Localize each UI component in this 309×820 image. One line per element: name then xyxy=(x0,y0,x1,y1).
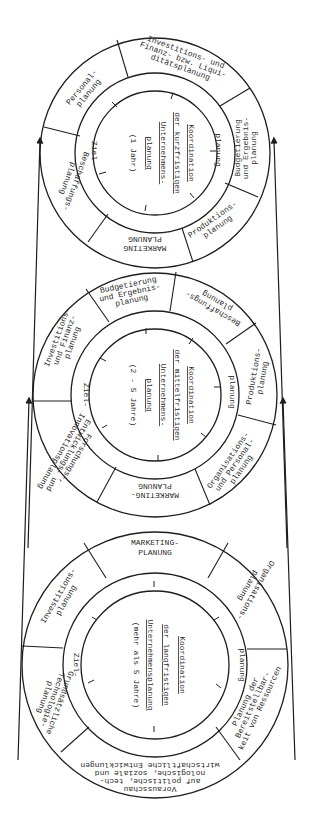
center-text-line-4: (mehr als 5 Jahre) xyxy=(132,622,141,708)
segment-marketing: MARKETING- PLANUNG xyxy=(131,482,179,500)
wheel-mid-term: Koordination der mittelfristigen Unterne… xyxy=(33,272,277,517)
inner-ring-right: planung xyxy=(238,648,247,682)
svg-text:MARKETING: MARKETING xyxy=(123,244,166,253)
inner-ring-right: planung xyxy=(214,133,223,167)
segment-marketing: MARKETING PLANUNG xyxy=(123,235,166,253)
center-text-line-5: (1 Jahr) xyxy=(129,134,138,172)
center-text-line-2: der langfristigen xyxy=(162,624,171,706)
center-text-line-4: planung xyxy=(145,136,154,170)
svg-text:MARKETING-: MARKETING- xyxy=(131,491,179,500)
svg-text:PLANUNG: PLANUNG xyxy=(128,235,162,244)
svg-text:PLANUNG: PLANUNG xyxy=(138,548,172,557)
center-text-line-3: Unternehmens- xyxy=(159,122,168,184)
wheel-long-term: Koordination der langfristigen Unternehm… xyxy=(22,532,288,798)
segment-bereitstellbarkeit-ressourcen: Planung der Bereitstellbar- keit von Res… xyxy=(222,658,283,751)
segment-vorausschau: Vorausschau auf politische, tech- nologi… xyxy=(80,761,219,794)
segment-forschung-entwicklung: Forschungs-, Entwicklungs- und Innovatio… xyxy=(36,412,101,500)
center-text-line-2: der kurzfristigen xyxy=(173,112,182,194)
segment-budgetierung: Budgetierung und Ergebnis- planung xyxy=(233,117,258,179)
center-text-line-3: Unternehmensplanung xyxy=(146,619,155,710)
center-text-line-5: (2 - 5 Jahre) xyxy=(129,364,138,426)
segment-investitions-finanz: Investitions- und Finanz- planung xyxy=(42,306,87,373)
segment-investitions: Investitions- planung xyxy=(39,566,86,629)
svg-text:wirtschaftliche Entwicklungen: wirtschaftliche Entwicklungen xyxy=(80,761,219,770)
center-text-line-2: der mittelfristigen xyxy=(173,349,182,440)
segment-marketing: MARKETING- PLANUNG xyxy=(131,538,179,557)
segment-produktion: Produktions- planung xyxy=(244,347,272,407)
svg-text:MARKETING-: MARKETING- xyxy=(131,538,179,547)
wheel-short-term: Koordination der kurzfristigen Unternehm… xyxy=(40,32,270,268)
svg-text:planung: planung xyxy=(249,131,258,165)
center-text-line-3: Unternehmens- xyxy=(159,364,168,426)
segment-organisation: Organisations- planung xyxy=(227,554,276,621)
center-text-line-1: Koordination xyxy=(187,124,196,182)
inner-ring-right: planung xyxy=(228,375,237,409)
svg-text:PLANUNG: PLANUNG xyxy=(138,482,172,491)
center-text-line-1: Koordination xyxy=(178,636,187,694)
center-text-line-1: Koordination xyxy=(187,366,196,424)
center-text-line-4: planung xyxy=(145,378,154,412)
segment-budgetierung: Budgetierung und Ergebnis- planung xyxy=(97,274,163,311)
planning-wheels-diagram: Koordination der kurzfristigen Unternehm… xyxy=(0,0,309,820)
segment-beschaffung: Beschaffungs- planung xyxy=(53,148,91,213)
inner-ring-left: Ziel- xyxy=(82,383,91,407)
